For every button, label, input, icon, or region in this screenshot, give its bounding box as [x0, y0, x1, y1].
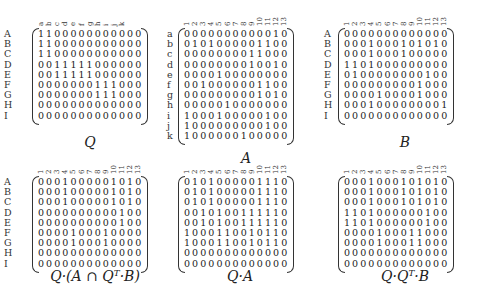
matrix-caption: Q·Qᵀ·B: [340, 268, 470, 284]
column-label: g: [87, 22, 94, 26]
column-label: 10: [257, 17, 264, 26]
column-label: i: [103, 24, 110, 26]
matrix-cell: 0: [223, 131, 231, 141]
left-parenthesis: [338, 28, 345, 125]
matrix-row: 0001000000001: [343, 100, 448, 110]
matrix-cell: 0: [232, 100, 240, 110]
matrix-row: 0000010000000: [183, 100, 288, 110]
matrix-cell: 0: [126, 111, 134, 121]
column-label: 6: [225, 170, 232, 174]
left-parenthesis: [32, 176, 39, 273]
left-parenthesis: [178, 176, 185, 273]
matrix-cell: 0: [191, 100, 199, 110]
matrix-cell: 0: [69, 111, 77, 121]
matrix-cell: 0: [264, 248, 272, 258]
matrix-cell: 0: [248, 248, 256, 258]
matrix-cell: 0: [400, 111, 408, 121]
matrix-cell: 0: [432, 100, 440, 110]
row-labels: ABCDEFGHI: [4, 177, 12, 269]
matrix-cell: 0: [359, 248, 367, 258]
matrix-cell: 0: [191, 248, 199, 258]
row-label: k: [167, 131, 173, 141]
matrix-cell: 0: [45, 100, 53, 110]
matrix-row: 0000000000000: [37, 100, 142, 110]
matrix-cell: 0: [264, 131, 272, 141]
matrix-cell: 0: [207, 100, 215, 110]
matrix-cell: 0: [207, 248, 215, 258]
row-label: H: [324, 100, 332, 110]
matrix-cell: 0: [199, 248, 207, 258]
column-label: 10: [417, 17, 424, 26]
column-label: 5: [216, 170, 223, 174]
column-label: k: [119, 22, 126, 26]
matrix-cell: 0: [408, 100, 416, 110]
matrix-row: 0000000000000: [37, 111, 142, 121]
matrix-cell: 0: [94, 248, 102, 258]
column-label: 5: [376, 170, 383, 174]
matrix-cell: 0: [256, 248, 264, 258]
matrix-cell: 0: [400, 248, 408, 258]
matrix-cell: 0: [199, 100, 207, 110]
column-label: 13: [441, 17, 448, 26]
matrix-caption: Q·(A ∩ Qᵀ·B): [25, 268, 165, 284]
matrix-cell: 0: [375, 248, 383, 258]
column-label: 6: [79, 170, 86, 174]
column-label: 11: [119, 165, 126, 174]
column-label: 9: [409, 22, 416, 26]
column-label: f: [79, 23, 86, 26]
matrix-cell: 0: [118, 248, 126, 258]
matrix-cell: 0: [215, 131, 223, 141]
matrix-cell: 0: [53, 100, 61, 110]
matrix-row: 0000000000000: [37, 248, 142, 258]
row-labels: ABCDEFGHI: [324, 29, 332, 121]
matrix-cell: 0: [86, 248, 94, 258]
column-label: 8: [95, 170, 102, 174]
row-labels: ABCDEFGHI: [4, 29, 12, 121]
matrix-caption: B: [340, 134, 470, 150]
column-label: 13: [281, 17, 288, 26]
column-label: 9: [103, 170, 110, 174]
column-label: 10: [417, 165, 424, 174]
row-label: I: [324, 111, 332, 121]
matrix-cell: 0: [432, 248, 440, 258]
matrix-cell: 0: [94, 100, 102, 110]
matrix-cell: 0: [240, 248, 248, 258]
matrix-cell: 0: [191, 131, 199, 141]
matrix-cell: 0: [256, 100, 264, 110]
matrix-cell: 0: [367, 248, 375, 258]
matrix-cell: 0: [408, 111, 416, 121]
column-label: 13: [441, 165, 448, 174]
column-label: h: [95, 21, 102, 26]
column-label: 1: [184, 170, 191, 174]
column-label: 7: [233, 22, 240, 26]
column-label: 11: [425, 165, 432, 174]
matrix-cell: 0: [45, 111, 53, 121]
matrix-cell: 0: [351, 111, 359, 121]
matrix-cell: 0: [102, 100, 110, 110]
column-label: 9: [409, 170, 416, 174]
matrix-cell: 1: [223, 100, 231, 110]
matrix-cell: 0: [86, 111, 94, 121]
matrix-cell: 0: [69, 100, 77, 110]
matrix-cell: 0: [53, 111, 61, 121]
matrix-cell: 0: [248, 131, 256, 141]
matrix-caption: Q: [30, 134, 150, 150]
matrix-cell: 0: [102, 111, 110, 121]
matrix-cell: 0: [126, 248, 134, 258]
column-label: 6: [385, 170, 392, 174]
matrix-cell: 0: [375, 111, 383, 121]
matrix-cell: 0: [272, 248, 280, 258]
column-label: 9: [249, 170, 256, 174]
matrix-cell: 0: [215, 100, 223, 110]
matrix-cell: 0: [272, 131, 280, 141]
matrix-cell: 0: [367, 111, 375, 121]
column-label: 11: [265, 165, 272, 174]
matrix-caption: Q·A: [180, 268, 300, 284]
column-label: 10: [257, 165, 264, 174]
matrix-entries: 1100000000000110000000000011000000000000…: [37, 29, 142, 121]
matrix-cell: 0: [351, 100, 359, 110]
column-label: 8: [241, 22, 248, 26]
matrix-caption: A: [176, 150, 316, 166]
matrix-cell: 0: [61, 111, 69, 121]
row-label: H: [4, 100, 12, 110]
